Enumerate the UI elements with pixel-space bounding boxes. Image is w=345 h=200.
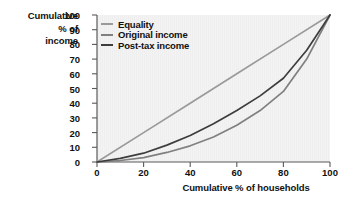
- y-axis-ticks: [92, 15, 97, 162]
- legend-label-equality: Equality: [118, 19, 154, 30]
- legend-label-original-income: Original income: [118, 29, 188, 40]
- legend-swatch-equality: [101, 23, 113, 25]
- lorenz-curve-chart: Cumulative % of income 100 90 80 70 60 5…: [0, 0, 345, 200]
- legend-item-original-income: Original income: [101, 30, 189, 41]
- legend-swatch-post-tax-income: [101, 44, 113, 46]
- legend-swatch-original-income: [101, 34, 113, 36]
- legend-item-equality: Equality: [101, 19, 189, 30]
- x-axis-ticks: [97, 162, 330, 167]
- legend-item-post-tax-income: Post-tax income: [101, 40, 189, 51]
- chart-legend: Equality Original income Post-tax income: [101, 19, 189, 51]
- legend-label-post-tax-income: Post-tax income: [118, 40, 189, 51]
